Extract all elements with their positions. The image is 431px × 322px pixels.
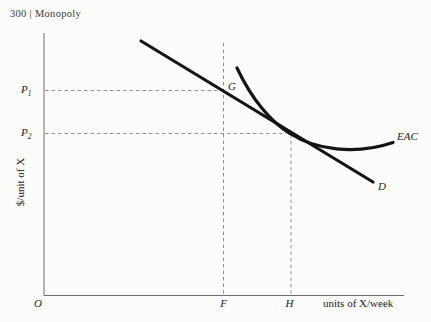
point-g-label: G [228, 81, 236, 92]
y-axis-title: $/unit of X [15, 147, 27, 217]
y-tick-p1: P1 [21, 84, 31, 96]
x-tick-h: H [283, 298, 296, 309]
x-tick-f: F [217, 298, 230, 309]
eac-curve-label: EAC [397, 131, 418, 142]
origin-label: O [34, 298, 42, 309]
eac-curve [237, 68, 393, 150]
demand-curve [141, 41, 373, 182]
x-axis-title: units of X/week [323, 298, 393, 309]
textbook-page: 300 | Monopoly P1 P2 G D EAC F H O units… [0, 0, 431, 322]
demand-curve-label: D [378, 181, 386, 192]
monopoly-diagram: P1 P2 G D EAC F H O units of X/week $/un… [0, 0, 431, 322]
figure-canvas [0, 0, 431, 322]
y-tick-p2: P2 [21, 127, 31, 139]
